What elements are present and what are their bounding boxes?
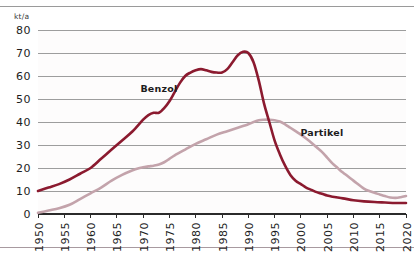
y-tick-label-80: 80 <box>16 24 31 37</box>
x-tick-label-2000: 2000 <box>295 222 308 252</box>
x-tick-label-1975: 1975 <box>164 222 177 252</box>
series-label-benzol: Benzol <box>140 83 177 94</box>
x-tick-label-2020: 2020 <box>401 222 414 252</box>
x-tick-label-1995: 1995 <box>269 222 282 252</box>
x-tick-label-1960: 1960 <box>85 222 98 252</box>
y-tick-label-30: 30 <box>16 139 31 152</box>
x-tick-label-2010: 2010 <box>348 222 361 252</box>
y-tick-label-0: 0 <box>24 208 32 221</box>
chart-figure: kt/a 01020304050607080195019551960196519… <box>0 0 414 259</box>
y-tick-label-40: 40 <box>16 116 31 129</box>
x-tick-label-1990: 1990 <box>243 222 256 252</box>
x-tick-label-1955: 1955 <box>59 222 72 252</box>
y-tick-label-70: 70 <box>16 47 31 60</box>
line-chart: 0102030405060708019501955196019651970197… <box>0 0 414 259</box>
x-tick-label-1980: 1980 <box>190 222 203 252</box>
x-tick-label-2005: 2005 <box>322 222 335 252</box>
series-label-partikel: Partikel <box>300 127 343 138</box>
x-tick-label-1985: 1985 <box>217 222 230 252</box>
y-tick-label-20: 20 <box>16 162 31 175</box>
y-tick-label-50: 50 <box>16 93 31 106</box>
y-tick-label-10: 10 <box>16 185 31 198</box>
x-tick-label-1950: 1950 <box>33 222 46 252</box>
x-tick-label-1970: 1970 <box>138 222 151 252</box>
x-tick-label-2015: 2015 <box>374 222 387 252</box>
x-tick-label-1965: 1965 <box>111 222 124 252</box>
y-tick-label-60: 60 <box>16 70 31 83</box>
